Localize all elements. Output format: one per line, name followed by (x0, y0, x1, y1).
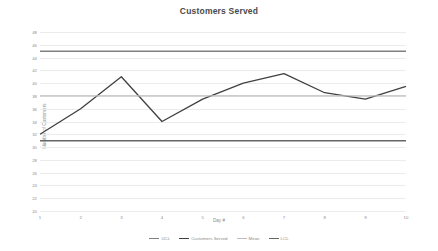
y-axis-tick-label: 24 (32, 183, 37, 188)
series-line-customers-served (40, 74, 406, 135)
plot-area: 202224262830323436384042444648 123456789… (40, 32, 406, 211)
legend-label: Mean (249, 236, 260, 241)
y-axis-tick-label: 36 (32, 106, 37, 111)
legend-swatch-icon (149, 238, 159, 239)
legend-label: UCL (161, 236, 170, 241)
legend-label: LCL (281, 236, 289, 241)
legend-item-mean[interactable]: Mean (237, 236, 260, 241)
legend-swatch-icon (237, 238, 247, 239)
legend-item-lcl[interactable]: LCL (269, 236, 289, 241)
y-axis-tick-label: 30 (32, 145, 37, 150)
series-layer (40, 32, 406, 211)
y-axis-tick-label: 42 (32, 68, 37, 73)
legend-item-customers-served[interactable]: Customers Served (179, 236, 227, 241)
y-axis-tick-label: 26 (32, 170, 37, 175)
legend-swatch-icon (179, 238, 189, 239)
y-axis-tick-label: 22 (32, 196, 37, 201)
control-chart: Customers Served Number of Customers 202… (0, 0, 438, 251)
y-axis-tick-label: 40 (32, 81, 37, 86)
x-axis-title: Day # (0, 218, 438, 223)
legend-item-ucl[interactable]: UCL (149, 236, 170, 241)
legend-label: Customers Served (191, 236, 227, 241)
chart-legend: UCLCustomers ServedMeanLCL (0, 236, 438, 241)
y-axis-tick-label: 28 (32, 157, 37, 162)
y-axis-tick-label: 48 (32, 30, 37, 35)
y-axis-tick-label: 46 (32, 42, 37, 47)
legend-swatch-icon (269, 238, 279, 239)
y-axis-tick-label: 44 (32, 55, 37, 60)
gridline (40, 211, 406, 212)
y-axis-tick-label: 34 (32, 119, 37, 124)
chart-title: Customers Served (0, 6, 438, 16)
y-axis-tick-label: 20 (32, 209, 37, 214)
y-axis-tick-label: 38 (32, 93, 37, 98)
y-axis-tick-label: 32 (32, 132, 37, 137)
